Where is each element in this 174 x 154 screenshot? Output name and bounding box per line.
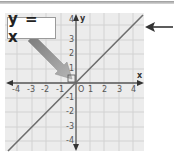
y-tick: 2 bbox=[69, 50, 74, 58]
y-tick: 1 bbox=[69, 65, 74, 73]
y-tick: 3 bbox=[69, 36, 74, 44]
x-tick: 3 bbox=[117, 86, 122, 94]
x-tick: -2 bbox=[41, 86, 49, 94]
x-tick: 2 bbox=[102, 86, 107, 94]
y-tick: -1 bbox=[66, 94, 74, 102]
x-tick: -3 bbox=[27, 86, 35, 94]
x-axis-label: x bbox=[137, 72, 142, 80]
origin-label: O bbox=[78, 86, 84, 94]
y-tick: 4 bbox=[69, 16, 74, 24]
x-tick: 4 bbox=[131, 86, 136, 94]
x-tick: -1 bbox=[56, 86, 64, 94]
y-tick: -3 bbox=[66, 123, 74, 131]
x-tick: 1 bbox=[88, 86, 93, 94]
y-tick: -2 bbox=[66, 108, 74, 116]
callout-arrow-icon bbox=[145, 22, 173, 32]
equation-label: y = x bbox=[7, 17, 56, 39]
y-tick: -4 bbox=[66, 137, 74, 145]
x-tick: -4 bbox=[12, 86, 20, 94]
y-axis-label: y bbox=[80, 15, 85, 23]
